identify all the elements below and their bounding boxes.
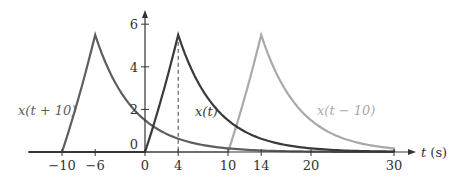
y-axis-arrow-icon bbox=[142, 10, 148, 18]
x-tick-label: 14 bbox=[253, 158, 270, 173]
x-tick-label: 0 bbox=[141, 158, 149, 173]
x-tick-label: −6 bbox=[86, 158, 105, 173]
curves bbox=[29, 35, 394, 152]
x-tick-label: −10 bbox=[48, 158, 75, 173]
x-tick-label: 4 bbox=[174, 158, 182, 173]
plot-area: −10−604101420300246 t (s) x(t + 10) x(t)… bbox=[0, 0, 463, 181]
y-tick-label: 0 bbox=[130, 137, 138, 152]
y-tick-label: 2 bbox=[130, 102, 138, 117]
y-tick-label: 4 bbox=[130, 60, 138, 75]
x-tick-label: 20 bbox=[303, 158, 320, 173]
x-axis-label: t (s) bbox=[421, 145, 447, 160]
x-tick-label: 30 bbox=[386, 158, 403, 173]
x-axis-arrow-icon bbox=[408, 149, 416, 155]
series-label-x-t: x(t) bbox=[195, 104, 218, 119]
series-curve bbox=[29, 35, 394, 152]
signal-shift-chart: −10−604101420300246 t (s) x(t + 10) x(t)… bbox=[0, 0, 463, 181]
series-label-x-t-minus-10: x(t − 10) bbox=[317, 103, 375, 118]
x-tick-label: 10 bbox=[220, 158, 237, 173]
series-curve bbox=[29, 35, 394, 152]
y-tick-label: 6 bbox=[130, 17, 138, 32]
series-label-x-t-plus-10: x(t + 10) bbox=[18, 103, 76, 118]
series-curve bbox=[29, 35, 394, 152]
